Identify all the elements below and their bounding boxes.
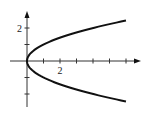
x-axis-arrow-icon xyxy=(134,59,141,64)
y-axis-arrow-icon xyxy=(25,11,30,18)
parabola-chart: 22 xyxy=(0,0,147,128)
y-tick-label: 2 xyxy=(17,23,22,34)
tick-labels: 22 xyxy=(17,23,63,77)
axes xyxy=(10,11,141,107)
x-tick-label: 2 xyxy=(58,65,63,76)
